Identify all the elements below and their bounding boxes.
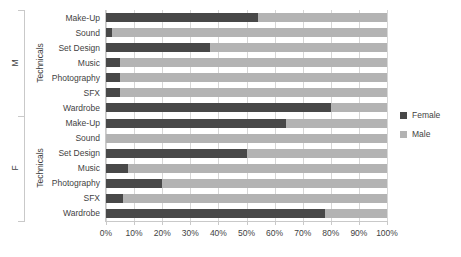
group-axis-tick	[18, 221, 25, 222]
gridline	[331, 10, 332, 221]
bar-segment-male	[210, 43, 387, 52]
category-label: Music	[0, 58, 100, 68]
category-label: Sound	[0, 133, 100, 143]
bar-segment-male	[106, 134, 387, 143]
category-label: Make-Up	[0, 118, 100, 128]
gridline	[387, 10, 388, 221]
bar-segment-female	[106, 43, 210, 52]
bar-segment-female	[106, 88, 120, 97]
bar-row	[106, 134, 387, 143]
gridline	[162, 10, 163, 221]
category-label: Photography	[0, 178, 100, 188]
category-label: SFX	[0, 88, 100, 98]
bar-segment-male	[112, 28, 387, 37]
category-label: Music	[0, 163, 100, 173]
gridline	[134, 10, 135, 221]
bar-row	[106, 88, 387, 97]
bar-segment-male	[258, 13, 387, 22]
bar-row	[106, 73, 387, 82]
bar-segment-female	[106, 149, 247, 158]
legend-label: Female	[412, 110, 440, 120]
category-label: SFX	[0, 193, 100, 203]
bar-row	[106, 164, 387, 173]
legend-label: Male	[412, 129, 430, 139]
group-axis-tick	[18, 116, 25, 117]
gridline	[275, 10, 276, 221]
category-label: Wardrobe	[0, 208, 100, 218]
category-label: Sound	[0, 28, 100, 38]
category-label: Wardrobe	[0, 103, 100, 113]
value-axis-tick	[387, 221, 388, 225]
value-axis-tick	[218, 221, 219, 225]
bar-row	[106, 58, 387, 67]
bar-segment-female	[106, 179, 162, 188]
legend-swatch-icon	[400, 131, 407, 138]
bar-row	[106, 43, 387, 52]
bar-segment-female	[106, 119, 286, 128]
legend-item[interactable]: Male	[400, 129, 440, 139]
bar-row	[106, 209, 387, 218]
value-axis-tick	[359, 221, 360, 225]
gridline	[247, 10, 248, 221]
bar-segment-female	[106, 73, 120, 82]
gridline	[190, 10, 191, 221]
value-axis-tick	[106, 221, 107, 225]
bar-segment-female	[106, 13, 258, 22]
bar-segment-male	[128, 164, 387, 173]
legend-swatch-icon	[400, 112, 407, 119]
bar-segment-female	[106, 194, 123, 203]
category-label: Set Design	[0, 148, 100, 158]
chart-legend: FemaleMale	[400, 110, 440, 148]
bar-row	[106, 13, 387, 22]
bar-segment-male	[120, 58, 387, 67]
stacked-bar-chart: MTechnicalsFTechnicals Make-UpSoundSet D…	[0, 0, 461, 257]
category-label: Set Design	[0, 43, 100, 53]
gridline	[106, 10, 107, 221]
bar-segment-male	[162, 179, 387, 188]
bar-segment-male	[286, 119, 387, 128]
value-axis-label: 100%	[367, 228, 407, 238]
bar-row	[106, 103, 387, 112]
bar-row	[106, 179, 387, 188]
bar-row	[106, 149, 387, 158]
bar-row	[106, 119, 387, 128]
value-axis-tick	[303, 221, 304, 225]
value-axis-tick	[162, 221, 163, 225]
value-axis-tick	[247, 221, 248, 225]
category-label: Make-Up	[0, 13, 100, 23]
bar-segment-male	[120, 73, 387, 82]
bar-segment-female	[106, 209, 325, 218]
bar-row	[106, 194, 387, 203]
value-axis-tick	[190, 221, 191, 225]
gridline	[218, 10, 219, 221]
bar-row	[106, 28, 387, 37]
value-axis-tick	[331, 221, 332, 225]
bar-segment-male	[325, 209, 387, 218]
bar-segment-female	[106, 58, 120, 67]
legend-item[interactable]: Female	[400, 110, 440, 120]
bar-segment-male	[123, 194, 387, 203]
value-axis-tick	[134, 221, 135, 225]
bar-segment-female	[106, 164, 128, 173]
bar-segment-male	[331, 103, 387, 112]
bar-segment-male	[247, 149, 388, 158]
category-label: Photography	[0, 73, 100, 83]
bar-segment-male	[120, 88, 387, 97]
plot-area	[106, 10, 387, 221]
group-axis-tick	[18, 10, 25, 11]
value-axis-tick	[275, 221, 276, 225]
gridline	[359, 10, 360, 221]
gridline	[303, 10, 304, 221]
bar-segment-female	[106, 103, 331, 112]
